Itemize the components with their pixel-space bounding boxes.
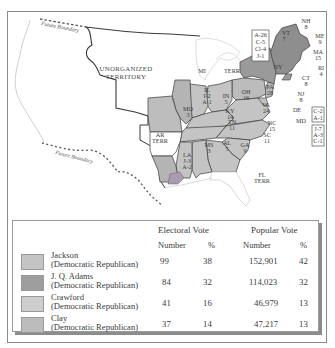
candidate-party: (Democratic Republican): [51, 301, 138, 311]
ny-split-2: C-5: [256, 38, 265, 45]
nj-votes: 8: [299, 96, 302, 103]
candidate-party: (Democratic Republican): [51, 322, 138, 332]
va-votes: 24: [263, 107, 269, 114]
candidate-label: Jackson(Democratic Republican): [51, 251, 138, 269]
pv-number: 47,217: [254, 319, 278, 329]
ny-split-4: J-1: [257, 52, 265, 59]
ev-number: 41: [162, 298, 171, 308]
ev-number-header: Number: [158, 240, 186, 250]
state-ct-ri: [282, 74, 292, 80]
candidate-party: (Democratic Republican): [51, 259, 138, 269]
pacific-coastline: [15, 20, 44, 142]
md-label: MD: [296, 117, 307, 124]
il-votes-2: A-1: [202, 98, 212, 105]
pv-pct-header: %: [300, 240, 307, 250]
oh-votes: 16: [243, 94, 249, 101]
ev-pct: 16: [203, 298, 212, 308]
pv-number: 152,901: [249, 256, 278, 266]
ms-votes: 3: [207, 147, 210, 154]
candidate-row-clay: Clay(Democratic Republican) 37 14 47,217…: [13, 315, 318, 337]
unorganized-territory-label-2: TERRITORY: [106, 73, 146, 80]
mi-terr-label: TERR: [224, 67, 241, 74]
ny-split-3: Cl-4: [255, 45, 266, 52]
territory-fl: [210, 172, 250, 206]
ev-number: 84: [162, 277, 171, 287]
clay-color-swatch: [21, 317, 44, 333]
electoral-vote-header: Electoral Vote: [158, 225, 209, 235]
la-votes-2: A-2: [182, 163, 192, 170]
mo-votes: 3: [186, 111, 189, 118]
pv-pct: 42: [299, 256, 308, 266]
ga-votes: 9: [243, 147, 246, 154]
pv-pct: 32: [299, 277, 308, 287]
candidate-party: (Democratic Republican): [51, 280, 138, 290]
fl-terr-label: TERR: [254, 177, 271, 184]
ev-pct-header: %: [208, 240, 215, 250]
md-split-3: C-1: [313, 137, 322, 144]
de-label: DE: [293, 106, 301, 113]
pv-number: 114,023: [249, 277, 277, 287]
ny-label: NY: [274, 63, 283, 70]
unorganized-territory-label: UNORGANIZED: [100, 65, 153, 72]
mi-label: MI: [198, 67, 206, 74]
future-boundary-south-label: Future Boundary: [54, 149, 94, 164]
candidate-label: Crawford(Democratic Republican): [51, 293, 138, 311]
ev-pct: 38: [203, 256, 212, 266]
ev-number: 99: [160, 256, 169, 266]
pv-number: 46,979: [254, 298, 278, 308]
sc-votes: 11: [264, 137, 270, 144]
pv-pct: 13: [299, 298, 308, 308]
candidate-label: J. Q. Adams(Democratic Republican): [51, 272, 138, 290]
candidate-label: Clay(Democratic Republican): [51, 314, 138, 332]
me-votes: 9: [318, 38, 321, 45]
results-legend-table: Electoral Vote Popular Vote Number % Num…: [12, 220, 319, 332]
ar-terr-label: TERR: [152, 137, 169, 144]
vt-votes: 7: [282, 35, 285, 42]
pv-pct: 13: [299, 319, 308, 329]
pa-votes: 28: [267, 89, 273, 96]
ev-pct: 32: [203, 277, 212, 287]
ev-pct: 14: [203, 319, 212, 329]
de-split-1: C-2: [313, 107, 322, 114]
nh-votes: 8: [304, 23, 307, 30]
ma-votes: 15: [315, 54, 321, 61]
ct-votes: 8: [304, 80, 307, 87]
al-votes: 5: [225, 145, 228, 152]
de-split-2: A-1: [313, 114, 323, 121]
northern-us-border: [86, 27, 200, 36]
ny-split-1: A-26: [254, 31, 267, 38]
popular-vote-header: Popular Vote: [251, 225, 297, 235]
ri-votes: 4: [319, 70, 322, 77]
state-tn: [180, 126, 226, 142]
pv-number-header: Number: [243, 240, 271, 250]
ev-number: 37: [162, 319, 171, 329]
adams-color-swatch: [21, 275, 44, 291]
tn-votes: 11: [229, 124, 235, 131]
in-votes: 5: [224, 98, 227, 105]
crawford-color-swatch: [21, 296, 44, 312]
jackson-color-swatch: [21, 254, 44, 270]
